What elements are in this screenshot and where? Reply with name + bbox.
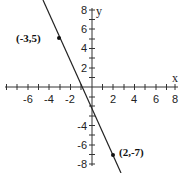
coordinate-plane: -6 -4 -2 2 4 6 8 8 6 4 2 -4 -6 -8 x y (-… bbox=[0, 0, 183, 173]
x-axis-label: x bbox=[172, 71, 178, 85]
x-tick-label: 6 bbox=[153, 93, 159, 105]
y-tick-label: -8 bbox=[77, 158, 87, 170]
y-tick-label: 6 bbox=[81, 23, 87, 35]
y-axis-label: y bbox=[96, 4, 102, 18]
x-tick-label: 2 bbox=[110, 93, 116, 105]
point-marker bbox=[111, 153, 115, 157]
y-tick-label: 2 bbox=[81, 62, 87, 74]
y-tick-label: 8 bbox=[81, 4, 87, 16]
x-tick-label: -2 bbox=[65, 93, 75, 105]
x-tick-label: -4 bbox=[44, 93, 54, 105]
point-label: (2,-7) bbox=[119, 146, 144, 159]
point-marker bbox=[57, 36, 61, 40]
x-tick-label: 4 bbox=[131, 93, 137, 105]
point-label: (-3,5) bbox=[16, 32, 41, 45]
x-tick-label: -6 bbox=[23, 93, 33, 105]
y-tick-label: 4 bbox=[81, 42, 87, 54]
y-tick-label: -6 bbox=[77, 139, 87, 151]
x-tick-label: 8 bbox=[172, 93, 178, 105]
y-tick-label: -4 bbox=[77, 120, 87, 132]
